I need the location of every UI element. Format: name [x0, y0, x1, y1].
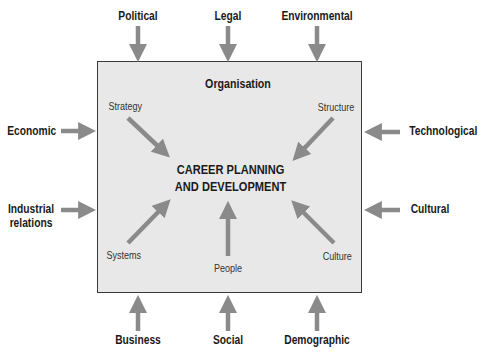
label-legal: Legal	[208, 9, 249, 23]
label-industrial-relations: Industrial relations	[7, 202, 55, 230]
career-planning-diagram: Political Legal Environmental Economic I…	[0, 0, 483, 355]
arrow-strategy	[128, 118, 164, 152]
label-industrial-line2: relations	[7, 216, 55, 230]
label-environmental: Environmental	[280, 9, 354, 23]
label-technological: Technological	[409, 124, 475, 138]
label-economic: Economic	[7, 124, 55, 138]
label-business: Business	[113, 333, 162, 347]
center-title: CAREER PLANNING AND DEVELOPMENT	[171, 161, 290, 195]
label-cultural: Cultural	[407, 202, 453, 216]
arrow-culture	[297, 206, 334, 243]
label-strategy: Strategy	[109, 100, 150, 112]
label-systems: Systems	[107, 249, 148, 261]
label-social: Social	[208, 333, 249, 347]
organisation-title: Organisation	[197, 76, 279, 91]
label-people: People	[209, 262, 247, 274]
label-political: Political	[118, 9, 159, 23]
label-culture: Culture	[314, 250, 352, 262]
arrow-systems	[128, 205, 165, 243]
label-structure: Structure	[312, 101, 355, 113]
center-title-line2: AND DEVELOPMENT	[171, 178, 290, 195]
arrow-structure	[298, 118, 333, 155]
center-title-line1: CAREER PLANNING	[171, 161, 290, 178]
label-demographic: Demographic	[284, 333, 350, 347]
label-industrial-line1: Industrial	[7, 202, 55, 216]
